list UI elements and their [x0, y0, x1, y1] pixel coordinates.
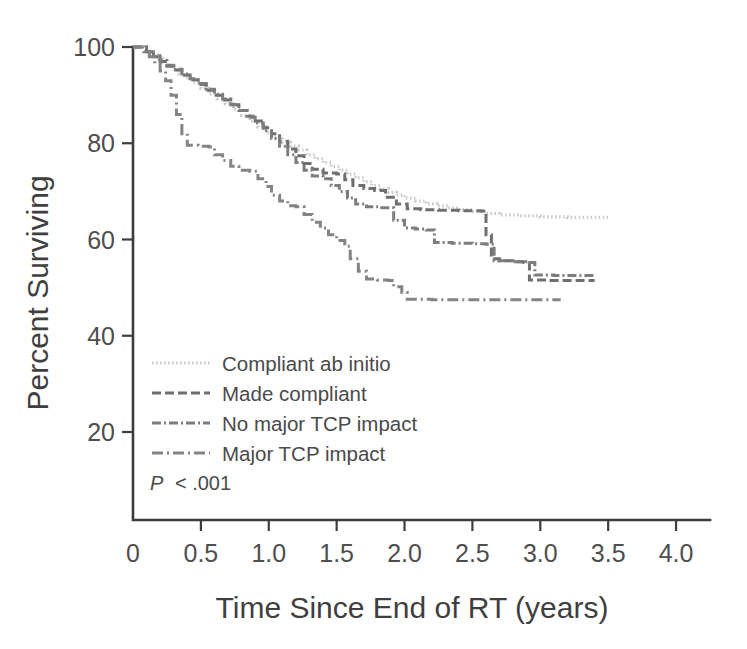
- x-tick-label: 0: [126, 539, 140, 567]
- y-tick-label: 20: [87, 418, 115, 446]
- y-axis-ticks: 20406080100: [73, 33, 133, 446]
- x-tick-label: 2.5: [455, 539, 490, 567]
- x-tick-label: 2.0: [387, 539, 422, 567]
- survival-curve-2: [133, 47, 595, 276]
- legend-label-2: No major TCP impact: [222, 412, 417, 435]
- x-tick-label: 3.5: [591, 539, 626, 567]
- survival-curve-1: [133, 47, 595, 280]
- survival-chart-figure: 20406080100 00.51.01.52.02.53.03.54.0 Co…: [0, 0, 747, 649]
- p-value-annotation: P < .001: [150, 472, 231, 494]
- y-tick-label: 100: [73, 33, 115, 61]
- x-axis-title: Time Since End of RT (years): [216, 591, 609, 624]
- p-value-symbol: P: [150, 472, 164, 494]
- y-axis-title: Percent Surviving: [21, 175, 54, 410]
- legend-label-0: Compliant ab initio: [222, 352, 391, 375]
- kaplan-meier-plot: 20406080100 00.51.01.52.02.53.03.54.0 Co…: [0, 0, 747, 649]
- y-tick-label: 40: [87, 322, 115, 350]
- chart-legend: Compliant ab initioMade compliantNo majo…: [152, 352, 417, 465]
- x-tick-label: 4.0: [659, 539, 694, 567]
- legend-label-3: Major TCP impact: [222, 442, 386, 465]
- x-tick-label: 1.0: [251, 539, 286, 567]
- x-tick-label: 3.0: [523, 539, 558, 567]
- x-tick-label: 1.5: [319, 539, 354, 567]
- survival-curve-0: [133, 47, 608, 218]
- survival-curves: [133, 47, 608, 300]
- y-tick-label: 80: [87, 129, 115, 157]
- p-value-text: < .001: [175, 472, 231, 494]
- y-tick-label: 60: [87, 226, 115, 254]
- legend-label-1: Made compliant: [222, 382, 367, 405]
- x-tick-label: 0.5: [183, 539, 218, 567]
- chart-axes: [133, 47, 710, 520]
- x-axis-ticks: 00.51.01.52.02.53.03.54.0: [126, 520, 693, 567]
